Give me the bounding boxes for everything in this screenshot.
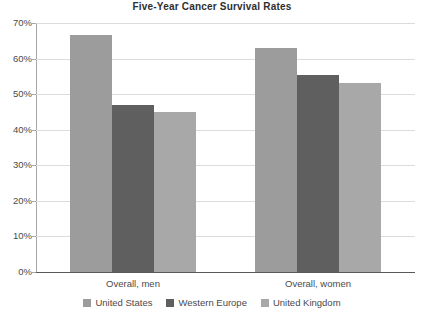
legend-label: Western Europe [178,297,246,308]
y-axis-label: 10% [2,230,32,241]
bar [297,75,339,272]
legend-item[interactable]: Western Europe [166,297,246,308]
y-axis-tick [32,130,36,131]
y-axis-tick [32,201,36,202]
chart-legend: United StatesWestern EuropeUnited Kingdo… [0,297,424,308]
x-axis-category-label: Overall, men [73,278,193,289]
chart-container: Five-Year Cancer Survival Rates 0%10%20%… [0,0,424,325]
bar [70,35,112,272]
y-axis-label: 60% [2,53,32,64]
x-axis-category-label: Overall, women [258,278,378,289]
y-axis-label: 20% [2,195,32,206]
legend-item[interactable]: United Kingdom [261,297,341,308]
y-axis-label: 0% [2,266,32,277]
legend-swatch-icon [83,299,91,307]
y-axis-tick [32,165,36,166]
bar [112,105,154,272]
gridline [36,272,415,273]
y-axis-tick [32,94,36,95]
y-axis-tick [32,272,36,273]
legend-label: United Kingdom [273,297,341,308]
legend-label: United States [95,297,152,308]
bar [255,48,297,272]
y-axis-label: 40% [2,124,32,135]
y-axis-tick [32,59,36,60]
legend-swatch-icon [166,299,174,307]
legend-swatch-icon [261,299,269,307]
y-axis-label: 70% [2,17,32,28]
bar [154,112,196,272]
chart-title: Five-Year Cancer Survival Rates [0,1,424,12]
gridline [36,23,415,24]
y-axis-tick [32,23,36,24]
y-axis-label: 50% [2,88,32,99]
y-axis-label: 30% [2,159,32,170]
bar [339,83,381,272]
y-axis-tick [32,236,36,237]
plot-area: 0%10%20%30%40%50%60%70% [36,23,415,272]
legend-item[interactable]: United States [83,297,152,308]
